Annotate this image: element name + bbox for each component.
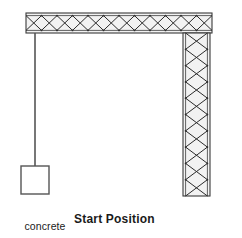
horizontal-beam-group — [26, 13, 212, 33]
concrete-block-label-line1: concrete — [8, 220, 82, 232]
figure-title: Start Position — [74, 213, 155, 227]
concrete-block — [21, 166, 49, 194]
vertical-column-group — [183, 33, 210, 196]
concrete-block-label: concrete block — [8, 196, 82, 238]
diagram-canvas: concrete block Start Position — [0, 0, 242, 238]
